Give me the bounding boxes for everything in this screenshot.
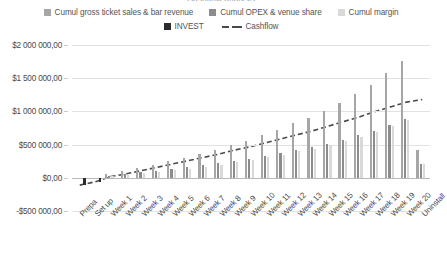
bar-0[interactable] bbox=[105, 174, 107, 178]
bar-0[interactable] bbox=[152, 165, 154, 178]
zero-axis-line bbox=[72, 178, 430, 179]
bar-1[interactable] bbox=[108, 176, 110, 178]
bar-0[interactable] bbox=[416, 150, 418, 178]
bar-0[interactable] bbox=[307, 118, 309, 178]
bar-1[interactable] bbox=[373, 131, 375, 178]
y-axis-tick bbox=[64, 211, 68, 212]
y-axis-tick-label: $1 500 000,00 bbox=[12, 74, 62, 83]
y-axis-tick-label: $2 000 000,00 bbox=[12, 41, 62, 50]
bar-0[interactable] bbox=[323, 111, 325, 177]
bar-1[interactable] bbox=[295, 150, 297, 178]
bar-2[interactable] bbox=[423, 164, 425, 178]
chart-legend: Cumul gross ticket sales & bar revenue C… bbox=[0, 6, 442, 33]
bar-0[interactable] bbox=[276, 130, 278, 178]
legend-label: Cumul gross ticket sales & bar revenue bbox=[55, 8, 194, 17]
bar-2[interactable] bbox=[392, 126, 394, 178]
y-axis-tick bbox=[64, 145, 68, 146]
gridline bbox=[72, 111, 430, 112]
legend-item-invest[interactable]: INVEST bbox=[164, 22, 204, 31]
legend-item-cumul-margin[interactable]: Cumul margin bbox=[338, 8, 399, 17]
bar-1[interactable] bbox=[248, 159, 250, 178]
bar-0[interactable] bbox=[385, 73, 387, 178]
bar-1[interactable] bbox=[170, 169, 172, 178]
y-axis-tick-label: -$500 000,00 bbox=[16, 207, 62, 216]
gridline bbox=[72, 45, 430, 46]
legend-label: Cumul OPEX & venue share bbox=[220, 8, 321, 17]
cashflow-line bbox=[72, 45, 430, 211]
bar-2[interactable] bbox=[143, 173, 145, 178]
bar-2[interactable] bbox=[189, 169, 191, 178]
bar-0[interactable] bbox=[261, 135, 263, 177]
bar-1[interactable] bbox=[420, 164, 422, 178]
legend-item-cumul-opex[interactable]: Cumul OPEX & venue share bbox=[209, 8, 321, 17]
bar-0[interactable] bbox=[401, 61, 403, 178]
bar-0[interactable] bbox=[245, 141, 247, 178]
bar-0[interactable] bbox=[167, 161, 169, 178]
bar-2[interactable] bbox=[360, 137, 362, 178]
bar-0[interactable] bbox=[370, 85, 372, 178]
dashed-line-icon bbox=[222, 23, 242, 30]
y-axis-labels: $2 000 000,00$1 500 000,00$1 000 000,00$… bbox=[0, 45, 68, 217]
bar-1[interactable] bbox=[311, 147, 313, 178]
y-axis-tick bbox=[64, 111, 68, 112]
y-axis-tick-label: $1 000 000,00 bbox=[12, 107, 62, 116]
bar-0[interactable] bbox=[136, 168, 138, 178]
bar-2[interactable] bbox=[205, 167, 207, 178]
bar-1[interactable] bbox=[202, 165, 204, 178]
bar-2[interactable] bbox=[127, 175, 129, 178]
bar-0[interactable] bbox=[230, 145, 232, 178]
bar-3[interactable] bbox=[83, 178, 85, 185]
legend-swatch-icon bbox=[44, 9, 51, 16]
bar-2[interactable] bbox=[158, 172, 160, 178]
chart-title: Cashflow analysis bbox=[0, 0, 442, 1]
bar-1[interactable] bbox=[357, 135, 359, 177]
bar-1[interactable] bbox=[186, 167, 188, 178]
bar-1[interactable] bbox=[217, 163, 219, 178]
bar-2[interactable] bbox=[407, 120, 409, 178]
bar-2[interactable] bbox=[345, 141, 347, 178]
bar-1[interactable] bbox=[233, 161, 235, 178]
bar-2[interactable] bbox=[267, 157, 269, 178]
legend-label: Cashflow bbox=[246, 22, 279, 31]
bar-2[interactable] bbox=[298, 151, 300, 178]
bar-3[interactable] bbox=[99, 178, 101, 182]
bar-1[interactable] bbox=[139, 172, 141, 177]
legend-swatch-icon bbox=[164, 23, 171, 30]
bar-2[interactable] bbox=[174, 170, 176, 178]
bar-0[interactable] bbox=[214, 150, 216, 178]
legend-swatch-icon bbox=[209, 9, 216, 16]
bar-1[interactable] bbox=[155, 171, 157, 178]
bar-2[interactable] bbox=[236, 162, 238, 178]
bar-0[interactable] bbox=[292, 123, 294, 177]
bar-1[interactable] bbox=[388, 125, 390, 178]
bar-1[interactable] bbox=[124, 174, 126, 177]
bar-1[interactable] bbox=[342, 140, 344, 178]
bar-2[interactable] bbox=[376, 132, 378, 178]
bar-1[interactable] bbox=[404, 119, 406, 178]
bar-2[interactable] bbox=[220, 165, 222, 178]
legend-row-2: INVEST Cashflow bbox=[0, 20, 442, 33]
bar-2[interactable] bbox=[252, 160, 254, 178]
bar-2[interactable] bbox=[329, 145, 331, 178]
bar-0[interactable] bbox=[354, 94, 356, 178]
bar-1[interactable] bbox=[264, 156, 266, 178]
gridline bbox=[72, 78, 430, 79]
y-axis-tick bbox=[64, 78, 68, 79]
bar-0[interactable] bbox=[338, 103, 340, 177]
legend-label: Cumul margin bbox=[349, 8, 399, 17]
bar-1[interactable] bbox=[279, 153, 281, 178]
bar-0[interactable] bbox=[198, 154, 200, 178]
legend-item-cumul-gross[interactable]: Cumul gross ticket sales & bar revenue bbox=[44, 8, 194, 17]
bar-2[interactable] bbox=[283, 155, 285, 178]
y-axis-tick bbox=[64, 178, 68, 179]
bar-2[interactable] bbox=[314, 149, 316, 178]
legend-item-cashflow[interactable]: Cashflow bbox=[222, 22, 279, 31]
bar-2[interactable] bbox=[111, 176, 113, 178]
bar-0[interactable] bbox=[121, 171, 123, 177]
y-axis-tick-label: $500 000,00 bbox=[19, 140, 62, 149]
plot-area bbox=[72, 45, 430, 211]
bar-1[interactable] bbox=[326, 144, 328, 178]
bar-0[interactable] bbox=[183, 158, 185, 178]
x-axis-labels: PrepaSet upWeek 1Week 2Week 3Week 4Week … bbox=[72, 212, 430, 263]
